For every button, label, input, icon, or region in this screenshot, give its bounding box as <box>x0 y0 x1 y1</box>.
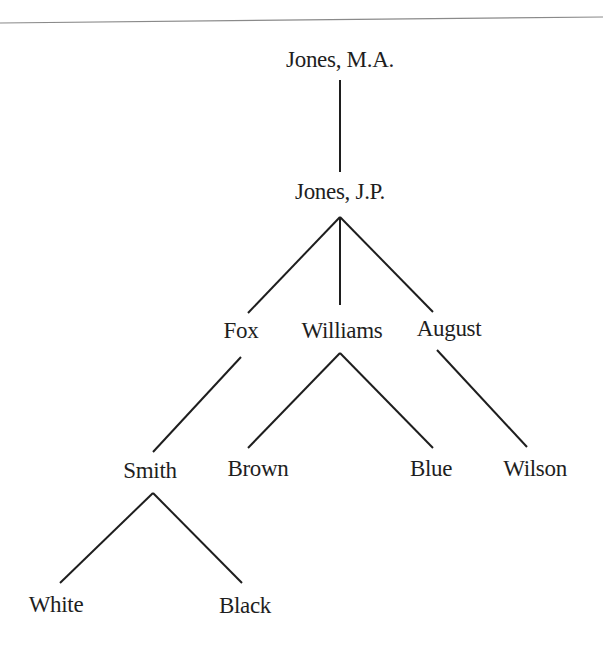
node-smith: Smith <box>123 458 176 484</box>
edge-williams-blue <box>340 353 433 448</box>
edge-jones_jp-fox <box>248 217 340 313</box>
edge-williams-brown <box>248 353 340 448</box>
node-black: Black <box>219 593 271 619</box>
node-fox: Fox <box>224 318 259 344</box>
node-wilson: Wilson <box>503 456 567 482</box>
node-jones-ma: Jones, M.A. <box>286 47 394 73</box>
edge-smith-white <box>60 493 153 583</box>
node-jones-jp: Jones, J.P. <box>295 179 385 205</box>
edge-jones_jp-august <box>340 217 433 312</box>
node-white: White <box>29 592 84 618</box>
edge-fox-smith <box>153 357 241 452</box>
edge-smith-black <box>153 493 242 583</box>
node-august: August <box>417 316 482 342</box>
node-williams: Williams <box>302 318 383 344</box>
node-brown: Brown <box>227 456 288 482</box>
top-rule <box>0 17 603 23</box>
node-blue: Blue <box>410 456 452 482</box>
edge-august-wilson <box>437 350 527 447</box>
